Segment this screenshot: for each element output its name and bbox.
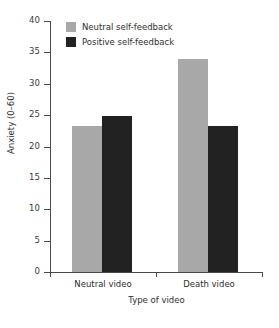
bar [208,126,238,272]
y-axis-tick-label: 30 [20,78,40,88]
bar [178,59,208,272]
x-axis-tick [262,272,263,277]
legend-item-label: Positive self-feedback [82,37,174,47]
plot-area [50,21,262,272]
y-axis-tick-label: 0 [20,266,40,276]
legend-item-neutral-self-feedback: Neutral self-feedback [66,19,174,34]
y-axis-tick-label: 20 [20,141,40,151]
x-axis-group-label: Neutral video [53,279,153,289]
x-axis-group-label: Death video [159,279,259,289]
x-axis-title: Type of video [50,295,263,305]
chart-legend: Neutral self-feedback Positive self-feed… [66,19,174,49]
y-axis-tick-label: 15 [20,172,40,182]
y-axis-tick-label: 5 [20,235,40,245]
y-axis-tick-label: 25 [20,109,40,119]
x-axis-tick [50,272,51,277]
y-axis-tick-label: 10 [20,203,40,213]
bar [102,116,132,272]
legend-item-label: Neutral self-feedback [82,22,173,32]
bar-chart-figure: 0510152025303540 Anxiety (0–60) Neutral … [0,0,279,328]
legend-swatch-icon [66,37,76,47]
legend-item-positive-self-feedback: Positive self-feedback [66,34,174,49]
bar [72,126,102,272]
y-axis-tick-label: 40 [20,15,40,25]
y-axis-tick-label: 35 [20,46,40,56]
y-axis-title: Anxiety (0–60) [6,63,16,183]
x-axis-tick [156,272,157,277]
legend-swatch-icon [66,22,76,32]
